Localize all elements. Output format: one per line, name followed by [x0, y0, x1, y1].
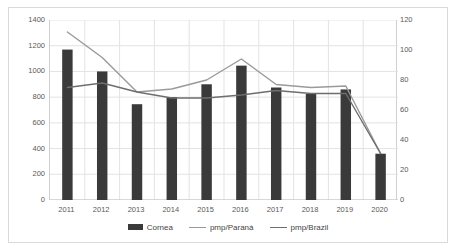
plot-area	[49, 20, 397, 200]
left-axis-tick-label: 1000	[11, 67, 45, 75]
legend-line-swatch-icon	[270, 227, 287, 228]
right-axis-tick-label: 0	[400, 196, 434, 204]
left-axis-tick-label: 400	[11, 145, 45, 153]
right-axis-tick-label: 40	[400, 136, 434, 144]
x-axis-tick-label: 2015	[188, 203, 223, 217]
x-axis-tick-label: 2018	[293, 203, 328, 217]
bar-2018[interactable]	[306, 94, 316, 200]
x-axis-tick-label: 2011	[49, 203, 84, 217]
left-axis-tick-label: 800	[11, 93, 45, 101]
x-axis-tick-label: 2014	[153, 203, 188, 217]
bar-2017[interactable]	[271, 88, 281, 201]
chart-legend: Corneapmp/Paranápmp/Brazil	[9, 219, 447, 235]
legend-line-swatch-icon	[189, 227, 206, 228]
x-axis-tick-label: 2017	[258, 203, 293, 217]
bar-2016[interactable]	[236, 66, 246, 200]
legend-item-label: Cornea	[147, 223, 173, 232]
right-axis-tick-label: 20	[400, 166, 434, 174]
bar-2014[interactable]	[167, 97, 177, 200]
x-axis-tick-label: 2012	[84, 203, 119, 217]
legend-item[interactable]: Cornea	[128, 223, 173, 232]
bar-2015[interactable]	[201, 84, 211, 200]
left-axis-tick-label: 600	[11, 119, 45, 127]
x-axis-tick-label: 2013	[119, 203, 154, 217]
bar-2012[interactable]	[97, 71, 107, 200]
legend-bar-swatch-icon	[128, 224, 143, 230]
right-y-axis: 020406080100120	[400, 20, 436, 200]
x-axis-tick-label: 2019	[327, 203, 362, 217]
x-axis: 2011201220132014201520162017201820192020	[49, 203, 397, 217]
bar-2013[interactable]	[132, 104, 142, 200]
left-axis-tick-label: 200	[11, 170, 45, 178]
bar-2020[interactable]	[375, 154, 385, 200]
legend-item[interactable]: pmp/Brazil	[270, 223, 329, 232]
right-axis-tick-label: 60	[400, 106, 434, 114]
chart-plot-svg	[50, 20, 398, 200]
left-axis-tick-label: 1200	[11, 42, 45, 50]
left-axis-tick-label: 1400	[11, 16, 45, 24]
right-axis-tick-label: 120	[400, 16, 434, 24]
legend-item[interactable]: pmp/Paraná	[189, 223, 254, 232]
x-axis-tick-label: 2020	[362, 203, 397, 217]
right-axis-tick-label: 80	[400, 76, 434, 84]
x-axis-tick-label: 2016	[223, 203, 258, 217]
legend-item-label: pmp/Paraná	[210, 223, 254, 232]
bar-2011[interactable]	[62, 50, 72, 200]
legend-item-label: pmp/Brazil	[291, 223, 329, 232]
chart-container: 0200400600800100012001400 02040608010012…	[8, 7, 448, 243]
left-y-axis: 0200400600800100012001400	[9, 20, 45, 200]
bar-2019[interactable]	[341, 89, 351, 200]
right-axis-tick-label: 100	[400, 46, 434, 54]
left-axis-tick-label: 0	[11, 196, 45, 204]
